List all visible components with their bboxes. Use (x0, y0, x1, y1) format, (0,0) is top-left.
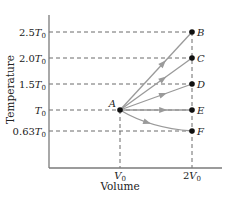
x-tick-label: 2V0 (183, 170, 201, 183)
dashed-reference-lines (49, 32, 192, 168)
point-F (189, 128, 195, 134)
y-axis-title: Temperature (4, 55, 16, 124)
point-B (189, 29, 195, 35)
axes (49, 15, 222, 168)
arrow-icon (158, 74, 168, 84)
process-path-A-F (120, 110, 192, 131)
y-tick-label: 0.63T0 (13, 126, 46, 139)
point-label-F: F (196, 126, 205, 137)
point-label-B: B (196, 27, 204, 38)
point-label-D: D (196, 79, 205, 90)
point-label-E: E (196, 105, 205, 116)
state-points: ABCDEF (108, 27, 205, 137)
axis-labels: 2.5T02.0T01.5T0T00.63T0V02V0VolumeTemper… (4, 27, 201, 193)
y-tick-label: 1.5T0 (19, 79, 46, 92)
process-path-A-D (120, 84, 192, 110)
point-D (189, 81, 195, 87)
point-A (117, 107, 123, 113)
process-path-A-B (120, 32, 192, 110)
y-tick-label: 2.0T0 (19, 53, 46, 66)
temperature-volume-diagram: ABCDEF 2.5T02.0T01.5T0T00.63T0V02V0Volum… (0, 0, 234, 198)
arrow-icon (143, 118, 152, 126)
y-tick-label: T0 (35, 105, 46, 118)
diagram-canvas: ABCDEF 2.5T02.0T01.5T0T00.63T0V02V0Volum… (0, 0, 234, 198)
process-paths (120, 32, 192, 131)
process-path-A-C (120, 58, 192, 110)
point-label-A: A (108, 98, 116, 109)
arrow-icon (159, 107, 167, 113)
x-axis-title: Volume (99, 180, 139, 192)
point-C (189, 55, 195, 61)
point-label-C: C (197, 53, 205, 64)
point-E (189, 107, 195, 113)
y-tick-label: 2.5T0 (19, 27, 46, 40)
arrow-icon (158, 90, 168, 98)
